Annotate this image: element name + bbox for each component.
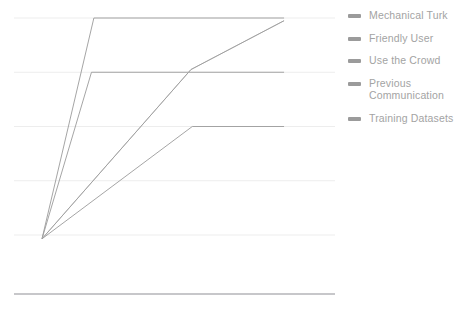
- legend-swatch-icon: [348, 59, 361, 63]
- legend-item[interactable]: Use the Crowd: [348, 54, 464, 67]
- line-chart-plot: [0, 0, 340, 311]
- series-line-use-the-crowd: [42, 21, 284, 239]
- legend-item[interactable]: Friendly User: [348, 32, 464, 45]
- chart-series-group: [42, 18, 284, 239]
- series-line-mechanical-turk: [42, 18, 284, 239]
- legend-item[interactable]: Mechanical Turk: [348, 9, 464, 22]
- legend-item-label: Mechanical Turk: [369, 9, 448, 22]
- series-line-friendly-user: [42, 72, 284, 239]
- legend-swatch-icon: [348, 82, 361, 86]
- legend-item[interactable]: Previous Communication: [348, 77, 464, 102]
- legend-item-label: Previous Communication: [369, 77, 444, 102]
- legend-swatch-icon: [348, 117, 361, 121]
- chart-legend: Mechanical TurkFriendly UserUse the Crow…: [348, 9, 464, 134]
- legend-item-label: Training Datasets: [369, 112, 453, 125]
- legend-swatch-icon: [348, 14, 361, 18]
- legend-item-label: Friendly User: [369, 32, 433, 45]
- series-line-previous-communication: [42, 21, 284, 239]
- legend-item[interactable]: Training Datasets: [348, 112, 464, 125]
- legend-item-label: Use the Crowd: [369, 54, 440, 67]
- legend-swatch-icon: [348, 37, 361, 41]
- chart-screenshot: Mechanical TurkFriendly UserUse the Crow…: [0, 0, 464, 311]
- series-line-training-datasets: [42, 127, 284, 239]
- chart-gridlines: [14, 18, 335, 235]
